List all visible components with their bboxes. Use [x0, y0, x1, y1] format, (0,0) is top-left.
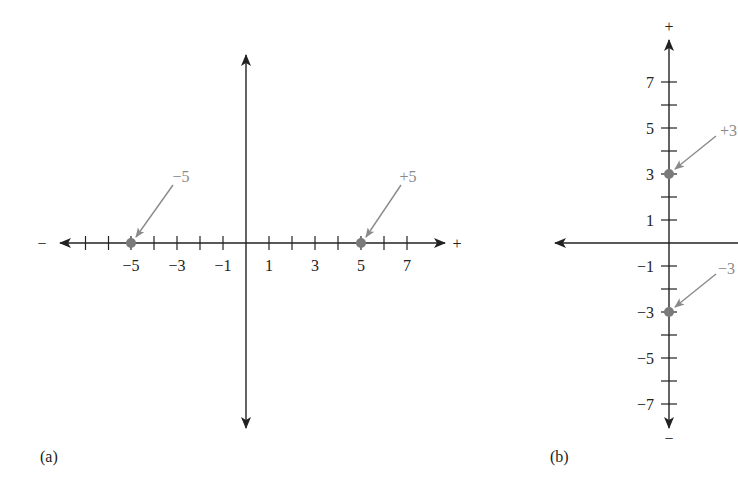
tick-label-b: 3 [646, 166, 654, 183]
tick-label-a: 1 [265, 257, 273, 274]
annotation-plus-5: +5 [399, 168, 416, 185]
panel-a: −5 −3 −1 1 3 5 7 − + −5 +5 (a) [37, 55, 461, 466]
caption-a: (a) [40, 448, 58, 466]
tick-label-a: 5 [357, 257, 365, 274]
arrow-plus-5 [366, 185, 401, 237]
positive-sign-b: + [664, 18, 673, 35]
point-plus-5 [356, 238, 366, 248]
point-plus-3 [664, 169, 674, 179]
annotation-minus-5: −5 [172, 168, 189, 185]
positive-sign-a: + [452, 235, 461, 252]
tick-label-a: −1 [214, 257, 231, 274]
negative-sign-a: − [37, 235, 46, 252]
tick-label-b: −3 [637, 304, 654, 321]
negative-sign-b: − [664, 430, 673, 447]
tick-label-a: −5 [122, 257, 139, 274]
tick-label-b: −5 [637, 350, 654, 367]
arrow-minus-3 [675, 274, 716, 307]
tick-label-b: 1 [646, 212, 654, 229]
tick-label-a: −3 [168, 257, 185, 274]
point-minus-3 [664, 307, 674, 317]
tick-label-a: 3 [311, 257, 319, 274]
tick-label-b: 5 [646, 120, 654, 137]
figure: −5 −3 −1 1 3 5 7 − + −5 +5 (a) [0, 0, 738, 488]
caption-b: (b) [550, 448, 569, 466]
arrow-minus-5 [136, 185, 173, 237]
tick-label-a: 7 [403, 257, 411, 274]
annotation-minus-3: −3 [718, 260, 735, 277]
tick-label-b: 7 [646, 74, 654, 91]
tick-label-b: −7 [637, 396, 654, 413]
tick-label-b: −1 [637, 258, 654, 275]
arrow-plus-3 [675, 136, 716, 169]
point-minus-5 [126, 238, 136, 248]
annotation-plus-3: +3 [720, 122, 737, 139]
panel-b: 7 5 3 1 −1 −3 −5 −7 + − +3 −3 (b) [550, 18, 738, 466]
